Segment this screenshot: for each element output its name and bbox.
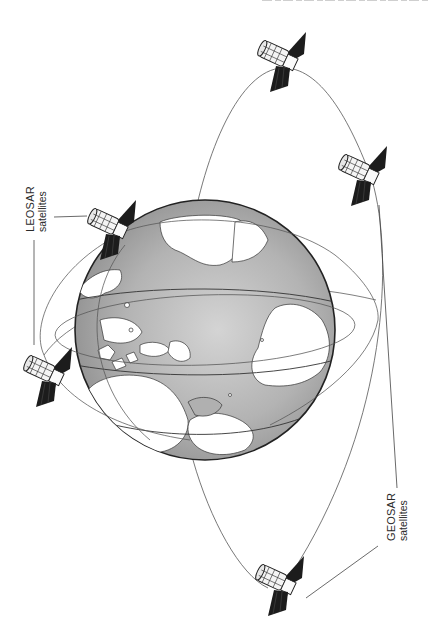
- geosar-satellite-bottom: [253, 556, 304, 616]
- geosar-label: GEOSAR satellites: [385, 493, 409, 541]
- geosar-label-line1: GEOSAR: [385, 493, 397, 541]
- leosar-label-line2: satellites: [36, 186, 48, 232]
- satellite-diagram: [0, 0, 435, 637]
- leosar-label: LEOSAR satellites: [24, 186, 48, 232]
- geosar-satellite-top: [255, 32, 306, 92]
- geosar-satellite-right: [336, 146, 387, 206]
- leosar-label-line1: LEOSAR: [24, 186, 36, 232]
- geosar-leader-lines: [306, 205, 397, 598]
- geosar-label-line2: satellites: [397, 493, 409, 541]
- leosar-satellite-2: [21, 347, 72, 407]
